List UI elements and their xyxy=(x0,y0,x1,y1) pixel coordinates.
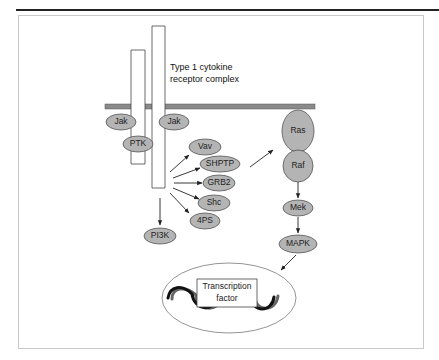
node-4ps: 4PS xyxy=(190,213,220,229)
svg-text:Transcription: Transcription xyxy=(203,281,252,291)
svg-text:Mek: Mek xyxy=(290,202,307,212)
svg-text:Vav: Vav xyxy=(198,141,213,151)
svg-text:Jak: Jak xyxy=(114,116,128,126)
svg-text:factor: factor xyxy=(216,293,237,303)
node-jak-right: Jak xyxy=(159,114,189,130)
node-raf: Raf xyxy=(283,150,313,182)
node-mapk: MAPK xyxy=(279,235,317,253)
node-shptp: SHPTP xyxy=(200,156,240,172)
node-shc: Shc xyxy=(198,195,230,211)
svg-text:Shc: Shc xyxy=(207,197,222,207)
svg-text:MAPK: MAPK xyxy=(286,238,310,248)
svg-text:Ras: Ras xyxy=(290,125,305,135)
receptor-chain-long xyxy=(152,26,165,188)
svg-text:Raf: Raf xyxy=(291,160,305,170)
svg-text:Jak: Jak xyxy=(167,116,181,126)
node-jak-left: Jak xyxy=(106,114,136,130)
receptor-label: Type 1 cytokine xyxy=(170,62,233,72)
svg-text:PTK: PTK xyxy=(130,138,147,148)
node-grb2: GRB2 xyxy=(203,175,235,191)
node-pi3k: PI3K xyxy=(144,228,176,244)
receptor-label-line2: receptor complex xyxy=(170,74,240,84)
node-ras: Ras xyxy=(282,110,314,152)
signaling-diagram: Type 1 cytokine receptor complex Jak Jak… xyxy=(0,0,439,360)
svg-text:4PS: 4PS xyxy=(197,215,213,225)
node-mek: Mek xyxy=(283,200,313,216)
cascade-arrows xyxy=(281,182,298,270)
transcription-factor-box: Transcription factor xyxy=(197,279,257,307)
node-vav: Vav xyxy=(189,139,221,155)
svg-text:PI3K: PI3K xyxy=(151,230,170,240)
svg-text:SHPTP: SHPTP xyxy=(206,158,235,168)
node-ptk: PTK xyxy=(123,136,153,152)
svg-text:GRB2: GRB2 xyxy=(207,177,230,187)
